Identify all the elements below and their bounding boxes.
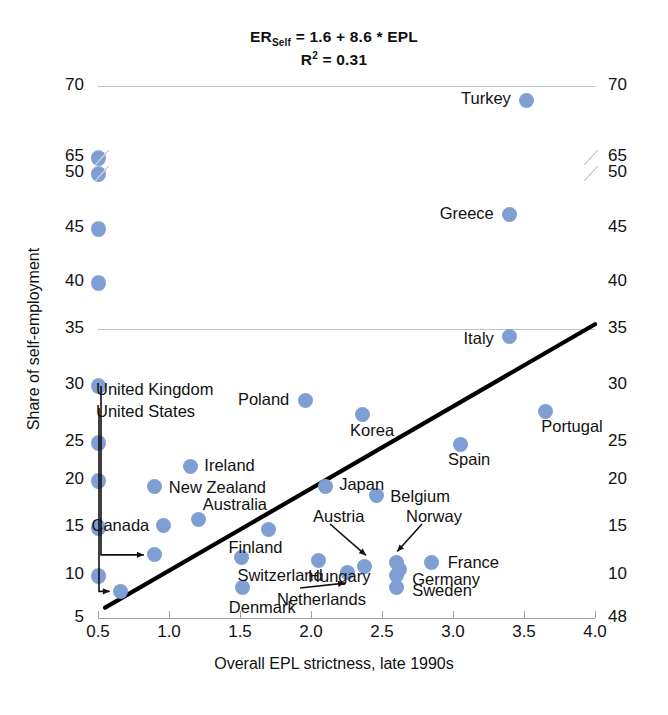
x-tick-4.0: 4.0 xyxy=(565,622,625,642)
point-label-japan: Japan xyxy=(339,475,384,494)
point-label-sweden: Sweden xyxy=(412,581,472,600)
x-tick-mark xyxy=(595,611,596,618)
point-label-united-states: United States xyxy=(96,402,195,421)
x-tick-3.0: 3.0 xyxy=(423,622,483,642)
gridline-70 xyxy=(98,86,595,87)
y-tick-left-30: 30 xyxy=(40,374,84,394)
point-label-australia: Australia xyxy=(203,495,267,514)
leader-austria-arrowhead xyxy=(359,549,366,556)
point-label-netherlands: Netherlands xyxy=(277,590,366,609)
data-point-canada[interactable] xyxy=(156,518,171,533)
y-tick-left-20: 20 xyxy=(40,469,84,489)
data-point-poland[interactable] xyxy=(298,393,313,408)
leader-united-states-arrowhead xyxy=(103,588,110,594)
point-label-norway: Norway xyxy=(406,507,462,526)
x-tick-mark xyxy=(98,611,99,618)
y-tick-left-25: 25 xyxy=(40,431,84,451)
data-point-sweden[interactable] xyxy=(389,580,404,595)
gridline-20 xyxy=(91,473,106,489)
data-point-ireland[interactable] xyxy=(183,459,198,474)
leader-norway-arrowhead xyxy=(397,544,404,551)
data-point-france[interactable] xyxy=(424,555,439,570)
y-tick-right-35: 35 xyxy=(608,318,652,338)
y-tick-left-35: 35 xyxy=(40,318,84,338)
y-tick-right-40: 40 xyxy=(608,271,652,291)
gridline-25 xyxy=(91,435,106,451)
x-tick-0.5: 0.5 xyxy=(68,622,128,642)
title-eq: = 1.6 + 8.6 * EPL xyxy=(291,28,418,45)
point-label-greece: Greece xyxy=(440,204,494,223)
point-label-france: France xyxy=(448,553,499,572)
point-label-portugal: Portugal xyxy=(541,417,602,436)
gridline-35 xyxy=(98,329,595,330)
point-label-belgium: Belgium xyxy=(390,487,450,506)
point-label-canada: Canada xyxy=(92,516,150,535)
gridline-65 xyxy=(91,150,106,166)
data-point-italy[interactable] xyxy=(502,329,517,344)
data-point-unlabeled[interactable] xyxy=(392,562,407,577)
leader-united-kingdom-arrowhead xyxy=(137,552,144,558)
gridline-50 xyxy=(91,166,106,182)
axis-break-mark xyxy=(584,166,598,182)
point-label-united-kingdom: United Kingdom xyxy=(96,380,213,399)
data-point-japan[interactable] xyxy=(318,479,333,494)
x-tick-3.5: 3.5 xyxy=(494,622,554,642)
leader-austria xyxy=(330,524,366,555)
data-point-new-zealand[interactable] xyxy=(147,479,162,494)
point-label-austria: Austria xyxy=(313,507,364,526)
y-tick-left-70: 70 xyxy=(40,75,84,95)
y-tick-left-40: 40 xyxy=(40,271,84,291)
data-point-greece[interactable] xyxy=(502,207,517,222)
x-tick-mark xyxy=(453,611,454,618)
y-axis-label: Share of self-employment xyxy=(25,209,43,469)
y-tick-right-10: 10 xyxy=(608,564,652,584)
data-point-united-states[interactable] xyxy=(113,584,128,599)
y-tick-right-20: 20 xyxy=(608,469,652,489)
y-tick-right-70: 70 xyxy=(608,75,652,95)
x-tick-2.5: 2.5 xyxy=(352,622,412,642)
axis-break-mark xyxy=(584,150,598,166)
y-tick-left-50: 50 xyxy=(40,162,84,182)
x-tick-2.0: 2.0 xyxy=(281,622,341,642)
y-tick-right-50: 50 xyxy=(608,162,652,182)
y-tick-right-45: 45 xyxy=(608,217,652,237)
gridline-45 xyxy=(91,221,106,237)
y-tick-left-15: 15 xyxy=(40,516,84,536)
x-tick-mark xyxy=(311,611,312,618)
chart-container: ERSelf = 1.6 + 8.6 * EPL R2 = 0.31 Share… xyxy=(0,0,668,715)
x-tick-mark xyxy=(524,611,525,618)
point-label-ireland: Ireland xyxy=(204,456,254,475)
x-axis-label: Overall EPL strictness, late 1990s xyxy=(0,655,668,673)
gridline-5 xyxy=(98,618,595,619)
point-label-finland: Finland xyxy=(228,538,282,557)
point-label-spain: Spain xyxy=(448,450,490,469)
x-tick-1.0: 1.0 xyxy=(139,622,199,642)
y-tick-left-10: 10 xyxy=(40,564,84,584)
title-er: ER xyxy=(250,28,272,45)
data-point-turkey[interactable] xyxy=(519,93,534,108)
chart-title: ERSelf = 1.6 + 8.6 * EPL R2 = 0.31 xyxy=(0,28,668,69)
point-label-poland: Poland xyxy=(238,390,289,409)
data-point-united-kingdom[interactable] xyxy=(147,547,162,562)
x-tick-1.5: 1.5 xyxy=(210,622,270,642)
x-tick-mark xyxy=(169,611,170,618)
point-label-italy: Italy xyxy=(464,329,494,348)
y-tick-right-15: 15 xyxy=(608,516,652,536)
y-tick-right-25: 25 xyxy=(608,431,652,451)
title-er-sub: Self xyxy=(272,37,291,48)
y-tick-left-45: 45 xyxy=(40,217,84,237)
leader-norway xyxy=(397,524,422,552)
point-label-korea: Korea xyxy=(350,421,394,440)
gridline-40 xyxy=(91,275,106,291)
y-tick-right-30: 30 xyxy=(608,374,652,394)
data-point-finland[interactable] xyxy=(261,522,276,537)
x-tick-mark xyxy=(382,611,383,618)
title-r2val: = 0.31 xyxy=(318,51,367,68)
point-label-new-zealand: New Zealand xyxy=(169,478,266,497)
title-r: R xyxy=(301,51,312,68)
point-label-switzerland: Switzerland xyxy=(237,566,322,585)
point-label-turkey: Turkey xyxy=(461,89,511,108)
gridline-10 xyxy=(91,568,106,584)
